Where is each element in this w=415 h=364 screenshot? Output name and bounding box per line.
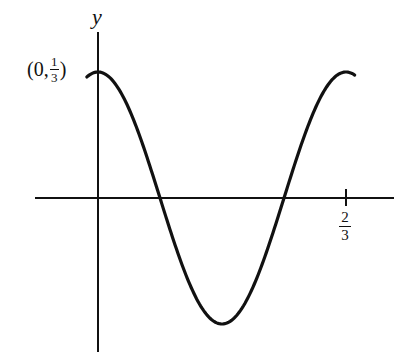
- tick-numerator: 2: [341, 210, 349, 225]
- point-label-prefix: (0,: [27, 58, 49, 81]
- tick-denominator: 3: [341, 228, 349, 243]
- point-label-suffix: ): [60, 58, 67, 81]
- point-label-0-one-third: (0, 1 3 ): [27, 55, 66, 84]
- y-axis-label: y: [92, 4, 102, 30]
- fraction-denominator: 3: [51, 71, 58, 84]
- fraction-one-third: 1 3: [50, 55, 59, 84]
- x-tick-label-two-thirds: 2 3: [339, 210, 351, 243]
- fraction-numerator: 1: [51, 55, 58, 68]
